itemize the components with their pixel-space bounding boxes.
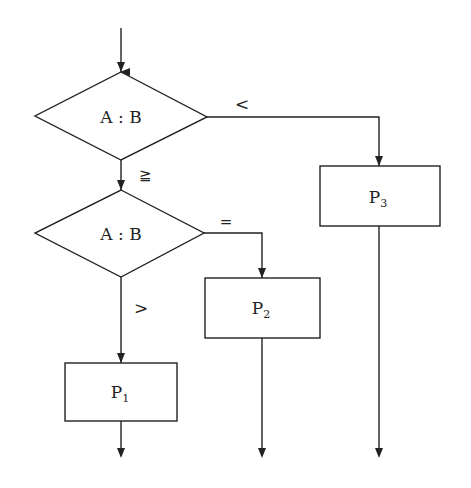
arrowhead-icon: [375, 448, 383, 458]
edge-label-greater-equal: ≧: [139, 166, 152, 184]
arrowhead-icon: [117, 448, 125, 458]
arrowhead-icon: [117, 180, 125, 190]
edge-label-less-than: <: [235, 94, 249, 114]
arrowhead-icon: [117, 353, 125, 363]
process-p1-label: P1: [111, 382, 129, 405]
arrowhead-icon: [258, 268, 266, 278]
arrowhead-icon: [258, 448, 266, 458]
edge-label-greater-than: >: [134, 298, 148, 318]
arrowheads: [117, 62, 383, 458]
arrowhead-icon: [375, 156, 383, 166]
d2-to-p2-connector: [204, 233, 262, 278]
d1-to-p3-connector: [207, 117, 379, 166]
process-p2-label: P2: [252, 298, 270, 321]
flowchart: A : B A : B < ≧ = > P3 P2 P1: [0, 0, 471, 488]
edge-label-equal: =: [220, 213, 233, 231]
arrowhead-icon: [117, 62, 125, 72]
decision-2-label: A : B: [99, 224, 141, 244]
decision-1-label: A : B: [99, 107, 141, 127]
process-p3-label: P3: [369, 187, 387, 210]
